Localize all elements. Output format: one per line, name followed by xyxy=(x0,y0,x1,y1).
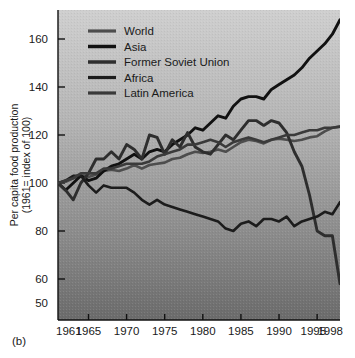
legend-label-asia: Asia xyxy=(124,41,147,53)
y-axis-title: Per capita food production (1961= index … xyxy=(8,104,32,227)
x-tick-label: 1980 xyxy=(190,325,216,337)
y-tick-label: 160 xyxy=(29,33,48,45)
y-tick-label: 140 xyxy=(29,81,48,93)
y-tick-label: 80 xyxy=(35,225,48,237)
panel-label: (b) xyxy=(12,335,26,347)
legend-label-latin-america: Latin America xyxy=(124,87,194,99)
legend-label-africa: Africa xyxy=(124,72,154,84)
legend-label-former-soviet-union: Former Soviet Union xyxy=(124,56,229,68)
x-tick-label: 1990 xyxy=(266,325,292,337)
x-tick-label: 1998 xyxy=(317,325,343,337)
figure-panel-b: 506080100120140160 196119651970197519801… xyxy=(0,0,355,358)
y-axis-title-line1: Per capita food production xyxy=(8,104,20,227)
x-tick-label: 1970 xyxy=(114,325,140,337)
x-tick-label: 1965 xyxy=(76,325,102,337)
chart-svg: 506080100120140160 196119651970197519801… xyxy=(0,0,355,358)
y-tick-label: 50 xyxy=(35,297,48,309)
legend-label-world: World xyxy=(124,25,154,37)
y-tick-label: 60 xyxy=(35,273,48,285)
y-axis-title-line2: (1961= index of 100) xyxy=(20,117,32,214)
x-tick-label: 1975 xyxy=(152,325,178,337)
x-tick-label: 1985 xyxy=(228,325,254,337)
